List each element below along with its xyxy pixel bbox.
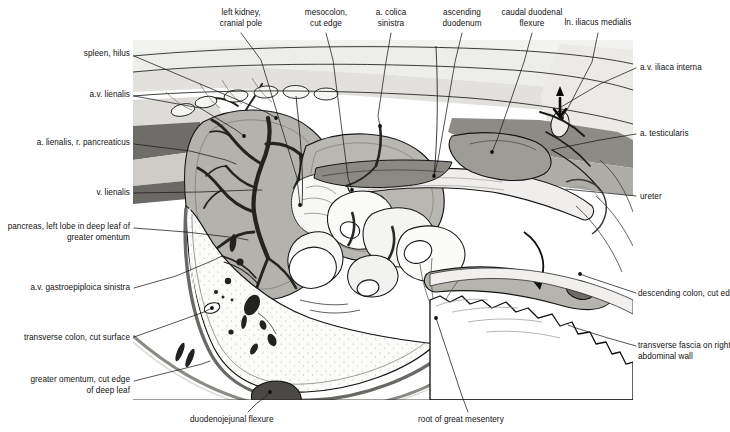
dot-caudal-flexure [490,150,494,154]
dot-descending-colon [578,272,582,276]
label-duodenojejunal-flexure: duodenojejunal flexure [190,415,310,426]
label-root-of-great-mesentery: root of great mesentery [418,415,542,426]
label-mesocolon-cut-edge: mesocolon, cut edge [288,8,364,29]
label-a-v-lienalis: a.v. lienalis [20,90,130,101]
label-a-v-gastroepiploica-sinistra: a.v. gastroepiploica sinistra [2,283,130,294]
dot-ln-iliacus [560,116,564,120]
label-pancreas-left-lobe: pancreas, left lobe in deep leaf of grea… [2,222,130,243]
label-spleen-hilus: spleen, hilus [20,49,130,60]
dot-duodenojejunal [268,390,272,394]
label-ln-iliacus-medialis: ln. iliacus medialis [548,18,648,29]
label-left-kidney-cranial-pole: left kidney, cranial pole [198,8,284,29]
label-a-v-iliaca-interna: a.v. iliaca interna [640,63,730,74]
dot-colica [378,124,382,128]
dot-av-lienalis [242,134,246,138]
label-a-lienalis-r-pancreaticus: a. lienalis, r. pancreaticus [5,138,130,149]
label-transverse-colon-cut-surface: transverse colon, cut surface [0,333,130,344]
anatomy-illustration-svg [0,0,730,432]
label-greater-omentum-cut-edge: greater omentum, cut edge of deep leaf [2,375,130,396]
label-a-colica-sinistra: a. colica sinistra [360,8,422,29]
dot-root-mesentery [434,316,438,320]
label-transverse-fascia-right-wall: transverse fascia on right abdominal wal… [638,341,730,362]
dot-mesocolon [350,188,354,192]
label-descending-colon-cut-edge: descending colon, cut edge [638,289,730,300]
figure-body [133,40,633,416]
label-ureter: ureter [640,192,730,203]
dot-colon-cut [210,306,214,310]
dot-ascending-duodenum [432,174,436,178]
label-v-lienalis: v. lienalis [20,188,130,199]
dot-spleen-hilus [274,116,278,120]
label-a-testicularis: a. testicularis [640,129,730,140]
anatomical-plate [0,0,730,432]
dot-kidney [298,203,302,207]
